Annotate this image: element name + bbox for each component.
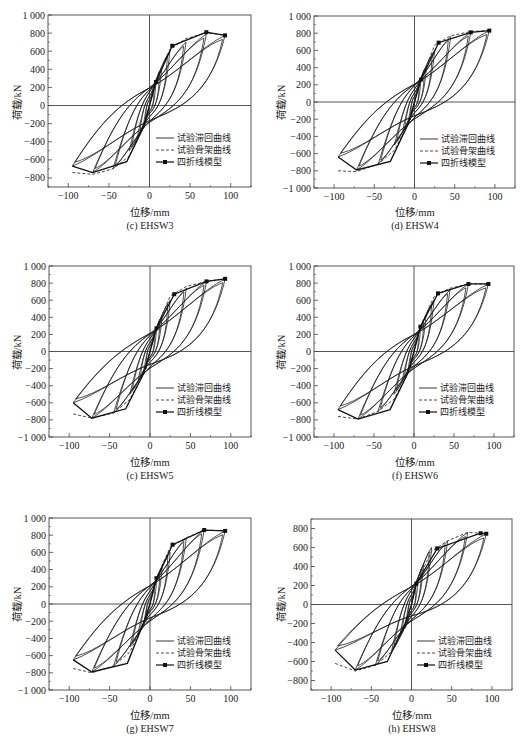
x-tick-label: −100 — [321, 693, 342, 704]
legend: 试验滞回曲线试验骨架曲线四折线模型 — [413, 634, 509, 676]
y-tick-label: −600 — [287, 656, 308, 667]
y-tick-label: −400 — [287, 637, 308, 648]
model-point-marker — [414, 582, 418, 586]
y-tick-label: 0 — [303, 599, 308, 610]
y-tick-label: 600 — [293, 542, 308, 553]
chart-panel-ehsw8: 8006004002000−200−400−600−800−100−500501… — [0, 0, 527, 745]
legend-entry: 试验骨架曲线 — [438, 647, 492, 658]
model-point-marker — [479, 531, 483, 535]
x-tick-label: 0 — [409, 693, 414, 704]
y-tick-label: 200 — [293, 580, 308, 591]
panel-caption: (h) EHSW8 — [332, 723, 492, 734]
legend-entry: 试验滞回曲线 — [438, 635, 492, 646]
x-tick-label: −50 — [363, 693, 379, 704]
model-point-marker — [484, 532, 488, 536]
x-tick-label: 100 — [484, 693, 499, 704]
y-tick-label: −800 — [287, 675, 308, 686]
x-axis-label: 位移/mm — [352, 707, 472, 722]
y-tick-label: 800 — [293, 523, 308, 534]
x-tick-label: 50 — [447, 693, 457, 704]
y-tick-label: −200 — [287, 618, 308, 629]
model-point-marker — [435, 546, 439, 550]
y-axis-label: 荷载/kN — [273, 575, 288, 635]
y-tick-label: 400 — [293, 561, 308, 572]
legend-entry: 四折线模型 — [438, 659, 483, 670]
plot-svg: 8006004002000−200−400−600−800−100−500501… — [0, 0, 527, 745]
